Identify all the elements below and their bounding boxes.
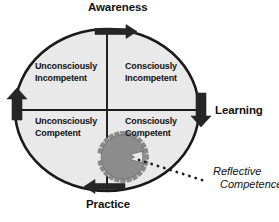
quadrant-line-1: Consciously	[125, 117, 177, 126]
quadrant-consciously-incompetent: Consciously Incompetent	[125, 62, 177, 83]
quadrant-line-1: Unconsciously	[35, 62, 97, 71]
annotation-line-1: Reflective	[213, 166, 279, 177]
quadrant-line-2: Competent	[125, 129, 177, 138]
quadrant-line-2: Incompetent	[35, 74, 97, 83]
annotation-line-2: Competence	[220, 179, 279, 190]
quadrant-line-2: Competent	[35, 129, 97, 138]
quadrant-line-1: Unconsciously	[35, 117, 97, 126]
competence-cycle-diagram: Awareness Learning Practice Unconsciousl…	[0, 0, 279, 222]
quadrant-consciously-competent: Consciously Competent	[125, 117, 177, 138]
axis-label-learning: Learning	[215, 105, 263, 117]
quadrant-line-2: Incompetent	[125, 74, 177, 83]
quadrant-unconsciously-incompetent: Unconsciously Incompetent	[35, 62, 97, 83]
quadrant-unconsciously-competent: Unconsciously Competent	[35, 117, 97, 138]
quadrant-line-1: Consciously	[125, 62, 177, 71]
axis-label-practice: Practice	[86, 199, 130, 211]
axis-label-awareness: Awareness	[88, 2, 148, 14]
annotation-reflective-competence: Reflective Competence	[213, 166, 279, 190]
